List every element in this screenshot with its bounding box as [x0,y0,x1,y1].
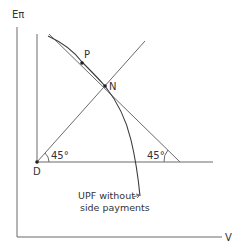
upf-curve [48,36,140,196]
origin-label: D [33,166,41,177]
point-n-label: N [109,81,116,92]
x-axis-label: V [225,232,232,243]
forty-five-degree-ray [37,41,145,162]
annotation-line-1: UPF without [78,190,135,201]
tangent-line [49,34,180,162]
point-p [80,61,84,65]
point-n [103,84,107,88]
left-angle-arc [45,153,49,162]
diagram-canvas: Eπ V 45° 45° D P N UPF without side paym… [0,0,242,251]
origin-point [35,160,39,164]
left-angle-label: 45° [51,150,69,161]
right-angle-label: 45° [147,150,165,161]
y-axis-label: Eπ [12,9,24,20]
annotation-line-2: side payments [80,202,150,213]
point-p-label: P [84,49,90,60]
